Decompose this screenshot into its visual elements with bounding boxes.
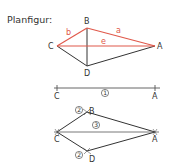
step-1-number: 1 <box>103 89 107 96</box>
side-cd <box>57 132 87 151</box>
step2-label-d: D <box>89 155 95 163</box>
vertex-label-c: C <box>48 42 54 51</box>
side-cb <box>57 112 87 132</box>
step1-label-a: A <box>152 92 158 101</box>
vertex-label-a: A <box>157 42 163 51</box>
side-label-e: e <box>101 37 106 46</box>
side-da <box>87 46 155 66</box>
side-cd <box>57 46 87 66</box>
step-3-number: 3 <box>94 121 98 128</box>
construction-step-1: C A 1 <box>54 85 160 101</box>
construction-step-2: B C A D 2 2 3 <box>54 106 159 163</box>
side-da <box>87 132 155 151</box>
side-label-a: a <box>116 26 121 35</box>
step2-label-c: C <box>54 135 60 144</box>
side-label-b: b <box>66 28 71 37</box>
step1-label-c: C <box>54 92 60 101</box>
step-2-number-d: 2 <box>77 151 81 158</box>
plan-figure: B C A D b a e <box>48 17 163 78</box>
arc-intersection-d-icon <box>83 148 91 154</box>
kite-construction-diagram: B C A D b a e C A 1 B C A D 2 2 <box>0 0 172 163</box>
step-2-number-b: 2 <box>77 106 81 113</box>
vertex-label-b: B <box>84 17 90 26</box>
step2-label-b: B <box>89 107 95 116</box>
side-a <box>87 28 155 46</box>
step2-label-a: A <box>152 135 158 144</box>
side-b <box>57 28 87 46</box>
vertex-label-d: D <box>84 69 90 78</box>
